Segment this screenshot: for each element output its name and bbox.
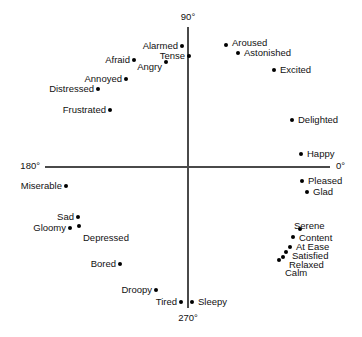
axis-label-270: 270° — [178, 313, 198, 323]
data-point-dot — [224, 43, 228, 47]
data-point-dot — [236, 51, 240, 55]
data-point-dot — [76, 215, 80, 219]
point-label-excited: Excited — [280, 65, 311, 75]
point-label-sad: Sad — [57, 212, 74, 222]
axis-label-180: 180° — [20, 161, 40, 171]
point-label-tired: Tired — [156, 297, 177, 307]
data-point-dot — [284, 250, 288, 254]
data-point-dot — [164, 60, 168, 64]
data-point-dot — [288, 245, 292, 249]
data-point-dot — [190, 300, 194, 304]
point-label-distressed: Distressed — [49, 84, 94, 94]
data-point-dot — [277, 258, 281, 262]
circumplex-affect-chart: 90° 0° 180° 270° AlarmedTenseAfraidAngry… — [0, 0, 362, 337]
point-label-calm: Calm — [285, 268, 307, 278]
data-point-dot — [118, 262, 122, 266]
vertical-axis — [187, 27, 189, 308]
data-point-dot — [291, 235, 295, 239]
data-point-dot — [108, 108, 112, 112]
point-label-serene: Serene — [294, 221, 325, 231]
data-point-dot — [272, 68, 276, 72]
point-label-afraid: Afraid — [105, 55, 130, 65]
point-label-gloomy: Gloomy — [33, 223, 66, 233]
point-label-depressed: Depressed — [83, 233, 129, 243]
data-point-dot — [179, 300, 183, 304]
point-label-miserable: Miserable — [21, 181, 62, 191]
data-point-dot — [281, 255, 285, 259]
data-point-dot — [180, 44, 184, 48]
point-label-angry: Angry — [137, 62, 162, 72]
axis-label-0: 0° — [336, 161, 345, 171]
data-point-dot — [300, 179, 304, 183]
point-label-sleepy: Sleepy — [198, 297, 227, 307]
data-point-dot — [187, 54, 191, 58]
data-point-dot — [305, 190, 309, 194]
point-label-glad: Glad — [313, 187, 333, 197]
data-point-dot — [96, 87, 100, 91]
axis-label-90: 90° — [181, 12, 195, 22]
point-label-droopy: Droopy — [121, 285, 152, 295]
data-point-dot — [77, 224, 81, 228]
data-point-dot — [68, 226, 72, 230]
point-label-pleased: Pleased — [308, 176, 342, 186]
data-point-dot — [299, 152, 303, 156]
data-point-dot — [290, 118, 294, 122]
point-label-bored: Bored — [91, 259, 116, 269]
data-point-dot — [64, 184, 68, 188]
point-label-tense: Tense — [160, 51, 185, 61]
data-point-dot — [124, 77, 128, 81]
data-point-dot — [154, 288, 158, 292]
data-point-dot — [132, 58, 136, 62]
point-label-frustrated: Frustrated — [63, 105, 106, 115]
point-label-delighted: Delighted — [298, 115, 338, 125]
point-label-astonished: Astonished — [244, 48, 291, 58]
point-label-happy: Happy — [307, 149, 334, 159]
